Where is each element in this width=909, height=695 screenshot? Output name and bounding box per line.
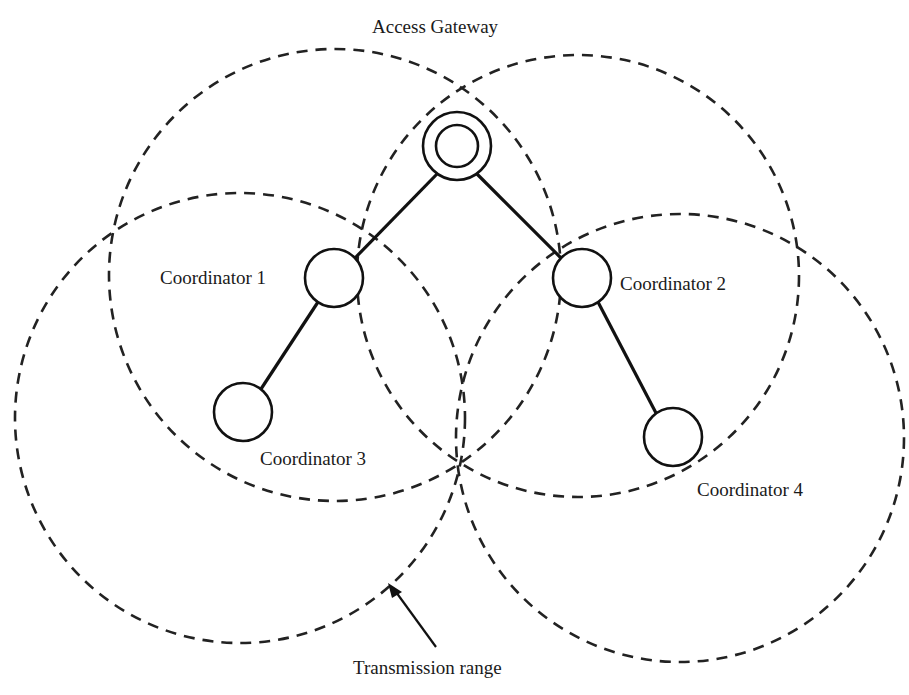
coordinator-4-label: Coordinator 4 [697, 479, 804, 500]
coordinator-2-label: Coordinator 2 [620, 273, 726, 294]
transmission-range-annotation: Transmission range [353, 583, 502, 678]
link-gateway-coordinator-2 [477, 174, 561, 258]
link-coordinator-2-coordinator-4 [598, 302, 656, 413]
annotation-arrow-shaft [396, 592, 436, 647]
coordinator-1-node [305, 249, 363, 307]
network-topology-diagram: Access Gateway Coordinator 1 Coordinator… [0, 0, 909, 695]
gateway-node [423, 112, 491, 180]
link-coordinator-1-coordinator-3 [261, 302, 318, 389]
gateway-label: Access Gateway [372, 16, 499, 37]
transmission-range-label: Transmission range [353, 657, 502, 678]
coordinator-4-node [644, 408, 702, 466]
coordinator-2-node [553, 249, 611, 307]
coordinator-1-label: Coordinator 1 [160, 267, 266, 288]
coordinator-3-label: Coordinator 3 [260, 448, 366, 469]
gateway-inner-ring [436, 125, 478, 167]
coordinator-3-node [214, 383, 272, 441]
link-gateway-coordinator-1 [355, 174, 437, 258]
